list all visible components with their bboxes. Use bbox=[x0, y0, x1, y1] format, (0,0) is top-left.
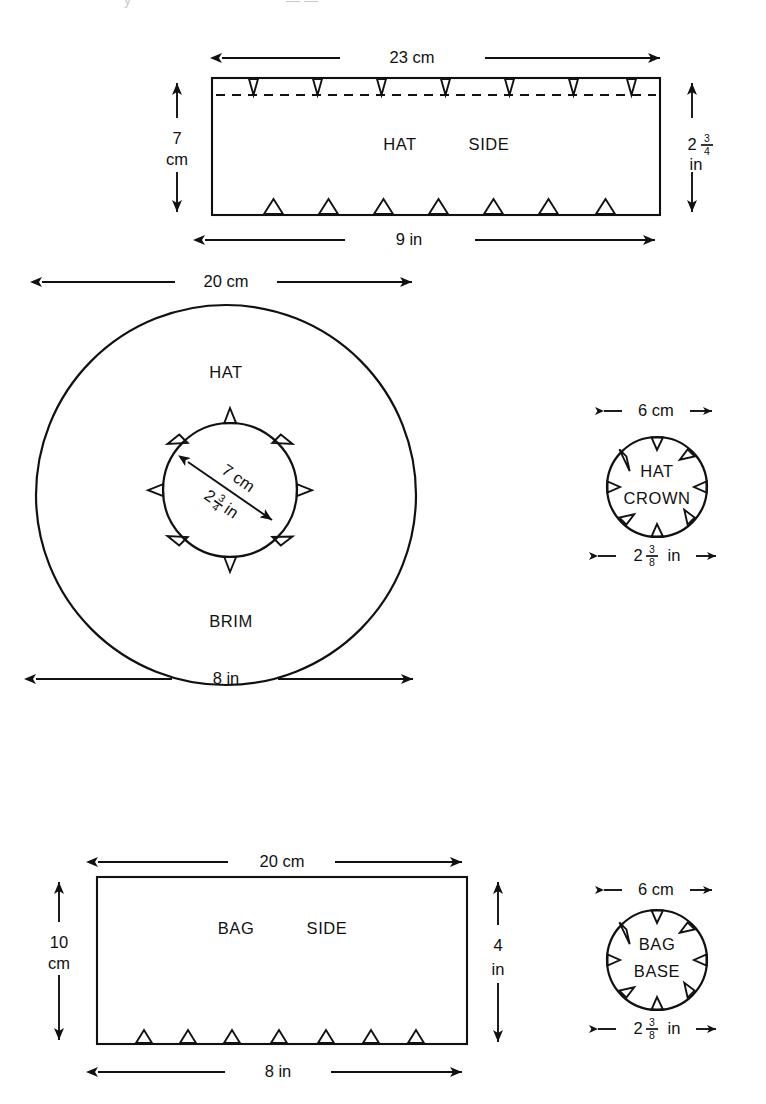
dim-label-crown-top: 6 cm bbox=[638, 401, 674, 419]
hat-side-label-word1: HAT bbox=[383, 135, 417, 153]
dim-label-hat-side-top: 23 cm bbox=[390, 48, 435, 66]
piece-hat-side: 23 cm bbox=[166, 48, 713, 248]
dim-hat-side-right: 2 3 4 in bbox=[687, 83, 713, 212]
bag-side-bottom-notches bbox=[136, 1030, 424, 1043]
dim-bag-base-bottom: 2 3 8 in bbox=[598, 1016, 716, 1041]
dim-label-brim-inner-cm: 7 cm bbox=[219, 460, 259, 495]
bag-side-outline bbox=[97, 877, 467, 1044]
dim-brim-top: 20 cm bbox=[42, 272, 412, 290]
dim-label-brim-inner-denominator: 4 bbox=[210, 500, 222, 513]
dim-label-hat-side-left-unit: cm bbox=[166, 150, 188, 168]
bag-base-notches bbox=[608, 911, 707, 1010]
dim-label-bag-base-top: 6 cm bbox=[638, 880, 674, 898]
dim-label-bag-base-bottom-whole: 2 bbox=[633, 1019, 642, 1037]
crown-label-word2: CROWN bbox=[623, 489, 690, 507]
dim-label-bag-base-bottom-denominator: 8 bbox=[649, 1029, 655, 1041]
bag-base-label-word1: BAG bbox=[639, 935, 676, 953]
dim-label-hat-side-right-whole: 2 bbox=[687, 135, 696, 153]
dim-label-crown-bottom-whole: 2 bbox=[633, 546, 642, 564]
dim-label-bag-base-bottom-numerator: 3 bbox=[649, 1016, 655, 1028]
crown-label-word1: HAT bbox=[640, 462, 674, 480]
piece-bag-base: 6 cm BAG BASE 2 bbox=[598, 880, 716, 1041]
dim-label-bag-side-right-unit: in bbox=[492, 960, 505, 978]
clipped-text-artifact-left: y bbox=[124, 0, 131, 8]
dim-label-bag-side-right-value: 4 bbox=[493, 936, 502, 954]
dim-label-crown-bottom-unit: in bbox=[668, 546, 681, 564]
hat-side-top-notches bbox=[249, 79, 636, 95]
dim-label-hat-side-left-value: 7 bbox=[172, 129, 181, 147]
dim-label-brim-top: 20 cm bbox=[204, 272, 249, 290]
dim-brim-bottom: 8 in bbox=[36, 669, 413, 687]
page-top-artifact: y — — bbox=[0, 0, 766, 16]
dim-label-hat-side-right-numerator: 3 bbox=[704, 132, 710, 144]
dim-label-hat-side-right-denominator: 4 bbox=[704, 145, 710, 157]
hat-side-outline bbox=[212, 78, 660, 215]
brim-inner-dim-labels: 7 cm 2 3 4 in bbox=[199, 460, 259, 524]
dim-label-brim-bottom: 8 in bbox=[213, 669, 240, 687]
brim-label-word2: BRIM bbox=[209, 612, 253, 630]
piece-bag-side: 20 cm BAG SIDE 10 cm bbox=[48, 852, 504, 1080]
dim-label-hat-side-right-unit: in bbox=[690, 155, 703, 173]
dim-bag-base-top: 6 cm bbox=[604, 880, 712, 898]
bag-base-label-word2: BASE bbox=[634, 962, 680, 980]
pattern-drawing: 23 cm bbox=[0, 0, 766, 1104]
dim-hat-side-top: 23 cm bbox=[222, 48, 660, 66]
dim-hat-side-left: 7 cm bbox=[166, 83, 188, 212]
dim-bag-side-bottom: 8 in bbox=[98, 1062, 462, 1080]
dim-label-bag-side-top: 20 cm bbox=[260, 852, 305, 870]
dim-crown-bottom: 2 3 8 in bbox=[598, 543, 716, 568]
piece-hat-crown: 6 cm HAT CROWN 2 bbox=[598, 401, 716, 568]
dim-hat-side-bottom: 9 in bbox=[205, 230, 655, 248]
dim-label-crown-bottom-numerator: 3 bbox=[649, 543, 655, 555]
dim-label-brim-inner-unit: in bbox=[221, 499, 242, 521]
dim-bag-side-left: 10 cm bbox=[48, 882, 70, 1040]
dim-label-bag-side-bottom: 8 in bbox=[265, 1062, 292, 1080]
dim-label-bag-side-left-value: 10 bbox=[50, 933, 68, 951]
dim-crown-top: 6 cm bbox=[604, 401, 712, 419]
dim-bag-side-right: 4 in bbox=[492, 882, 505, 1042]
dim-label-bag-side-left-unit: cm bbox=[48, 954, 70, 972]
bag-side-label-word1: BAG bbox=[218, 919, 255, 937]
clipped-text-artifact-right: — — bbox=[286, 0, 318, 8]
crown-notches bbox=[608, 438, 707, 537]
dim-label-bag-base-bottom-unit: in bbox=[668, 1019, 681, 1037]
dim-label-hat-side-bottom: 9 in bbox=[396, 230, 423, 248]
hat-side-label-word2: SIDE bbox=[469, 135, 510, 153]
brim-label-word1: HAT bbox=[209, 363, 243, 381]
dim-bag-side-top: 20 cm bbox=[98, 852, 462, 870]
dim-label-brim-inner-inches: 2 3 4 in bbox=[200, 484, 244, 524]
pattern-sheet: y — — 23 cm bbox=[0, 0, 766, 1104]
bag-side-label-word2: SIDE bbox=[307, 919, 348, 937]
dim-label-crown-bottom-denominator: 8 bbox=[649, 556, 655, 568]
hat-side-bottom-notches bbox=[264, 199, 615, 214]
piece-hat-brim: 20 cm 7 cm bbox=[36, 272, 416, 687]
